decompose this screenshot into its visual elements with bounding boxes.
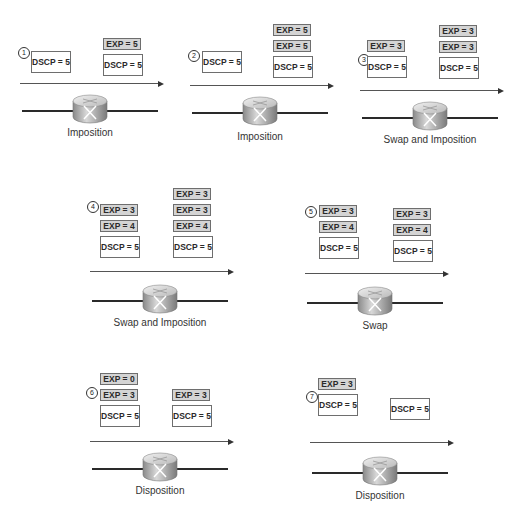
- step-number-badge: 1: [18, 47, 30, 59]
- step-number-badge: 4: [87, 201, 99, 213]
- arrow-right-icon: [305, 273, 445, 274]
- stage-caption: Imposition: [200, 131, 320, 142]
- router-icon: [72, 94, 108, 124]
- dscp-label: DSCP = 5: [319, 237, 359, 259]
- exp-label: EXP = 3: [367, 40, 405, 52]
- exp-label: EXP = 4: [173, 220, 211, 232]
- router-icon: [362, 456, 398, 486]
- dscp-label: DSCP = 5: [318, 394, 358, 416]
- dscp-label: DSCP = 5: [103, 54, 143, 76]
- arrow-right-icon: [360, 90, 500, 91]
- exp-label: EXP = 0: [100, 373, 138, 385]
- arrow-right-icon: [310, 442, 450, 443]
- step-number-badge: 5: [305, 206, 317, 218]
- arrow-right-icon: [20, 83, 160, 84]
- step-number-badge: 6: [86, 387, 98, 399]
- exp-label: EXP = 3: [439, 25, 477, 37]
- exp-label: EXP = 5: [103, 38, 141, 50]
- exp-label: EXP = 3: [173, 188, 211, 200]
- step-number-badge: 7: [306, 391, 318, 403]
- dscp-label: DSCP = 5: [273, 56, 313, 78]
- router-icon: [142, 452, 178, 482]
- exp-label: EXP = 5: [273, 24, 311, 36]
- exp-label: EXP = 4: [319, 221, 357, 233]
- dscp-label: DSCP = 5: [172, 405, 212, 427]
- router-icon: [142, 284, 178, 314]
- dscp-label: DSCP = 5: [100, 236, 140, 258]
- stage-caption: Disposition: [100, 485, 220, 496]
- exp-label: EXP = 3: [100, 204, 138, 216]
- dscp-label: DSCP = 5: [390, 398, 430, 420]
- exp-label: EXP = 3: [393, 208, 431, 220]
- dscp-label: DSCP = 5: [202, 51, 242, 73]
- dscp-label: DSCP = 5: [439, 57, 479, 79]
- stage-caption: Swap and Imposition: [100, 317, 220, 328]
- stage-caption: Swap and Imposition: [370, 134, 490, 145]
- arrow-right-icon: [190, 85, 330, 86]
- router-icon: [357, 286, 393, 316]
- arrow-right-icon: [90, 441, 230, 442]
- exp-label: EXP = 3: [439, 41, 477, 53]
- dscp-label: DSCP = 5: [393, 240, 433, 262]
- exp-label: EXP = 3: [318, 378, 356, 390]
- dscp-label: DSCP = 5: [100, 405, 140, 427]
- router-icon: [412, 101, 448, 131]
- exp-label: EXP = 3: [319, 205, 357, 217]
- dscp-label: DSCP = 5: [31, 51, 71, 73]
- stage-caption: Swap: [315, 320, 435, 331]
- dscp-label: DSCP = 5: [173, 236, 213, 258]
- exp-label: EXP = 3: [100, 389, 138, 401]
- router-icon: [242, 96, 278, 126]
- stage-caption: Imposition: [30, 127, 150, 138]
- arrow-right-icon: [90, 271, 230, 272]
- exp-label: EXP = 5: [273, 40, 311, 52]
- step-number-badge: 2: [188, 50, 200, 62]
- dscp-label: DSCP = 5: [367, 56, 407, 78]
- stage-caption: Disposition: [320, 490, 440, 501]
- exp-label: EXP = 3: [172, 389, 210, 401]
- exp-label: EXP = 4: [100, 220, 138, 232]
- exp-label: EXP = 3: [173, 204, 211, 216]
- exp-label: EXP = 4: [393, 224, 431, 236]
